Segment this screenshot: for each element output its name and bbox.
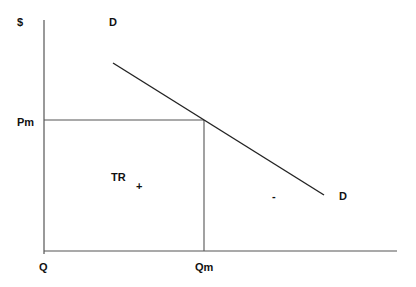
demand-curve [113,63,324,195]
origin-label: Q [39,261,48,273]
total-revenue-label: TR [111,171,126,183]
quantity-label: Qm [195,261,214,273]
elastic-plus-sign: + [136,180,142,192]
demand-label-top: D [109,16,117,28]
monopoly-diagram: $ D Pm Q Qm TR + - D [0,0,416,287]
demand-label-end: D [339,190,347,202]
inelastic-minus-sign: - [272,190,276,202]
price-label: Pm [17,116,34,128]
y-axis-label: $ [17,16,23,28]
